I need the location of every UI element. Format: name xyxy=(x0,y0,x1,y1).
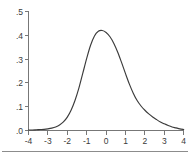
density-curve xyxy=(29,30,184,130)
y-tick-label-00: .0 xyxy=(16,126,23,136)
x-tick-label-m1: -1 xyxy=(83,136,91,146)
x-axis-tick-labels: -4 -3 -2 -1 0 1 2 3 4 xyxy=(25,136,187,146)
x-tick-label-2: 2 xyxy=(143,136,148,146)
x-tick-label-4: 4 xyxy=(181,136,186,146)
y-tick-label-05: .5 xyxy=(16,7,23,17)
y-tick-label-01: .1 xyxy=(16,102,23,112)
y-tick-label-04: .4 xyxy=(16,31,23,41)
y-tick-label-02: .2 xyxy=(16,78,23,88)
y-axis-tick-labels: .5 .4 .3 .2 .1 .0 xyxy=(16,7,23,136)
x-axis-ticks xyxy=(29,131,184,135)
x-tick-label-m3: -3 xyxy=(44,136,52,146)
plot-canvas: .5 .4 .3 .2 .1 .0 -4 -3 -2 -1 0 1 xyxy=(0,0,190,157)
density-plot-figure: .5 .4 .3 .2 .1 .0 -4 -3 -2 -1 0 1 xyxy=(0,0,190,157)
x-tick-label-m4: -4 xyxy=(25,136,33,146)
x-tick-label-m2: -2 xyxy=(64,136,72,146)
y-axis-ticks xyxy=(25,12,29,131)
x-tick-label-1: 1 xyxy=(123,136,128,146)
y-tick-label-03: .3 xyxy=(16,55,23,65)
x-tick-label-0: 0 xyxy=(104,136,109,146)
x-tick-label-3: 3 xyxy=(162,136,167,146)
